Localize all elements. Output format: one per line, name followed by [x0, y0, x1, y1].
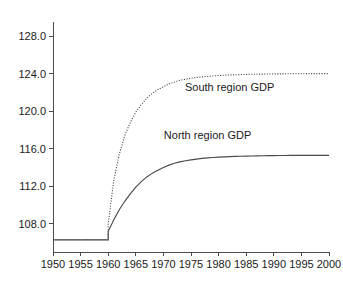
x-tick-label: 1960: [96, 258, 120, 270]
annotation-north-region-gdp: North region GDP: [164, 129, 251, 141]
annotation-south-region-gdp: South region GDP: [185, 81, 274, 93]
y-tick-label: 112.0: [19, 180, 46, 192]
y-tick-label: 116.0: [19, 143, 46, 155]
x-axis-ticks: [53, 252, 329, 256]
x-tick-label: 1980: [206, 258, 230, 270]
x-tick-label: 1955: [68, 258, 92, 270]
x-tick-label: 1975: [179, 258, 203, 270]
chart-canvas: 108.0112.0116.0120.0124.0128.0 195019551…: [0, 0, 343, 283]
y-axis-group: 108.0112.0116.0120.0124.0128.0: [18, 22, 53, 252]
x-axis-tick-labels: 1950195519601965197019751980198519901995…: [41, 258, 341, 270]
x-tick-label: 1995: [289, 258, 313, 270]
y-axis-tick-labels: 108.0112.0116.0120.0124.0128.0: [18, 30, 46, 230]
x-tick-label: 1990: [262, 258, 286, 270]
y-tick-label: 108.0: [18, 218, 46, 230]
x-tick-label: 1965: [124, 258, 148, 270]
y-axis-ticks: [49, 36, 53, 224]
series-line-north-region-gdp: [53, 155, 329, 239]
series-line-south-region-gdp: [53, 74, 329, 240]
series-lines: [53, 74, 329, 240]
y-tick-label: 124.0: [18, 68, 46, 80]
x-tick-label: 1985: [234, 258, 258, 270]
x-tick-label: 2000: [317, 258, 341, 270]
x-tick-label: 1970: [151, 258, 175, 270]
series-annotations: South region GDPNorth region GDP: [164, 81, 274, 142]
x-tick-label: 1950: [41, 258, 65, 270]
gdp-line-chart: 108.0112.0116.0120.0124.0128.0 195019551…: [0, 0, 343, 283]
y-tick-label: 120.0: [18, 105, 46, 117]
x-axis-group: 1950195519601965197019751980198519901995…: [41, 252, 341, 270]
y-tick-label: 128.0: [18, 30, 46, 42]
